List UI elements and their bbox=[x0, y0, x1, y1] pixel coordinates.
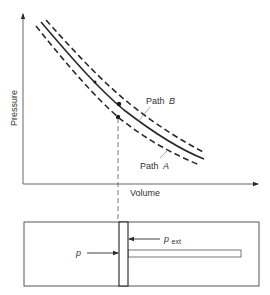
internal-pressure-label: p bbox=[75, 248, 81, 258]
point-path-b-early bbox=[94, 81, 97, 84]
piston-rod bbox=[128, 250, 241, 257]
y-axis-label: Pressure bbox=[9, 90, 19, 126]
path-a-leader bbox=[160, 150, 168, 158]
pv-diagram: Pressure Volume Path B Path A p p ext bbox=[0, 0, 270, 295]
path-b-label: Path B bbox=[146, 96, 175, 106]
path-b-leader bbox=[138, 107, 150, 122]
path-b-curve bbox=[46, 20, 205, 153]
x-axis-label: Volume bbox=[130, 188, 160, 198]
external-pressure-label: p ext bbox=[163, 234, 181, 245]
point-path-b bbox=[117, 102, 121, 106]
piston-head bbox=[119, 222, 128, 286]
path-a-label: Path A bbox=[140, 161, 169, 171]
